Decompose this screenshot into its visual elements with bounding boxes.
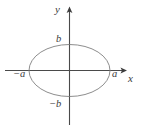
x-axis-label: x: [128, 73, 133, 84]
semi-major-negative-label: −a: [13, 68, 25, 79]
y-axis-label: y: [55, 4, 60, 15]
semi-minor-negative-label: −b: [49, 98, 61, 109]
figure-canvas: [0, 0, 145, 130]
semi-minor-positive-label: b: [56, 33, 61, 44]
ellipse-figure: y x b −b a −a: [0, 0, 145, 130]
semi-major-positive-label: a: [112, 68, 117, 79]
